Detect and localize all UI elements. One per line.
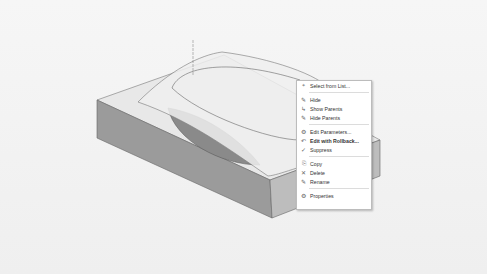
menu-item-label: Copy — [310, 161, 322, 167]
menu-item-label: Edit with Rollback... — [310, 138, 359, 144]
menu-item-edit-parameters[interactable]: ⚙Edit Parameters... — [297, 127, 371, 136]
menu-item-label: Hide — [310, 97, 321, 103]
menu-item-label: Delete — [310, 170, 325, 176]
menu-item-label: Suppress — [310, 147, 332, 153]
edit-parameters-icon: ⚙ — [300, 129, 307, 135]
context-menu: ⌖Select from List...✎Hide↳Show Parents✎H… — [296, 80, 372, 210]
rename-icon: ✎ — [300, 179, 307, 185]
cad-model[interactable] — [0, 0, 487, 274]
hide-parents-icon: ✎ — [300, 115, 307, 121]
menu-separator — [309, 92, 369, 93]
graphics-viewport[interactable] — [0, 0, 487, 274]
menu-item-label: Show Parents — [310, 106, 342, 112]
hide-icon: ✎ — [300, 97, 307, 103]
menu-item-select-from-list[interactable]: ⌖Select from List... — [297, 81, 371, 90]
menu-item-label: Hide Parents — [310, 115, 340, 121]
suppress-icon: ✓ — [300, 147, 307, 153]
menu-item-hide-parents[interactable]: ✎Hide Parents — [297, 113, 371, 122]
menu-item-label: Edit Parameters... — [310, 129, 352, 135]
menu-item-suppress[interactable]: ✓Suppress — [297, 145, 371, 154]
menu-separator — [309, 156, 369, 157]
menu-item-label: Properties — [310, 193, 334, 199]
delete-icon: ✕ — [300, 170, 307, 176]
menu-separator — [309, 188, 369, 189]
edit-rollback-icon: ↶ — [300, 138, 307, 144]
menu-item-hide[interactable]: ✎Hide — [297, 95, 371, 104]
menu-item-copy[interactable]: ⎘Copy — [297, 159, 371, 168]
copy-icon: ⎘ — [300, 160, 307, 167]
menu-item-rename[interactable]: ✎Rename — [297, 177, 371, 186]
menu-separator — [309, 124, 369, 125]
menu-item-show-parents[interactable]: ↳Show Parents — [297, 104, 371, 113]
menu-item-label: Select from List... — [310, 83, 350, 89]
menu-item-properties[interactable]: ⚙Properties — [297, 191, 371, 200]
show-parents-icon: ↳ — [300, 106, 307, 112]
menu-item-edit-with-rollback[interactable]: ↶Edit with Rollback... — [297, 136, 371, 145]
menu-item-delete[interactable]: ✕Delete — [297, 168, 371, 177]
select-list-icon: ⌖ — [300, 82, 307, 89]
properties-icon: ⚙ — [300, 193, 307, 199]
menu-item-label: Rename — [310, 179, 330, 185]
